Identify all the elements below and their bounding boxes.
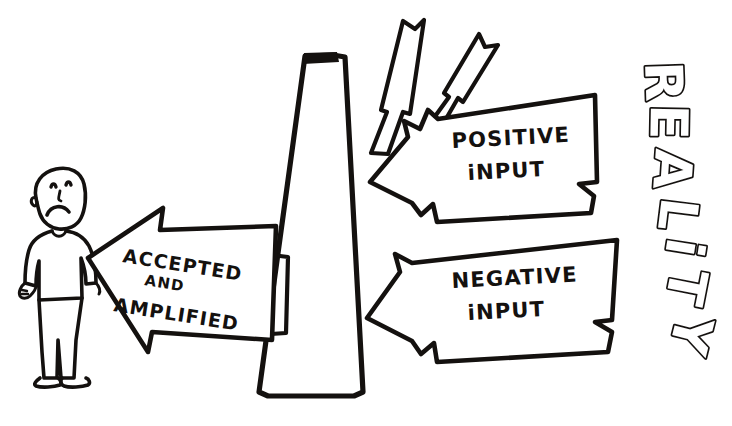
nose <box>59 191 61 201</box>
left-eye <box>51 184 56 187</box>
reality-letter-6: Y <box>657 308 725 361</box>
ear <box>31 198 37 206</box>
reality-letter-0: R <box>633 60 694 102</box>
sketch-canvas: POSITIVE iNPUT NEGATIVE iNPUT ACCEPTED A… <box>0 0 732 426</box>
frowning-mouth <box>47 207 69 215</box>
reality-letter-3: L <box>646 195 710 235</box>
reality-letter-4: i <box>653 234 715 261</box>
reality-wordmark: R E A L i T Y <box>633 60 725 361</box>
right-hand <box>96 283 100 294</box>
worried-person-figure <box>19 168 99 387</box>
reality-letter-5: T <box>653 264 719 311</box>
collar <box>52 231 66 236</box>
trousers <box>39 298 82 378</box>
left-hand-fingers <box>22 290 28 294</box>
reality-letter-1: E <box>638 104 699 141</box>
negative-input-line2: iNPUT <box>467 297 546 325</box>
negative-input-arrow: NEGATIVE iNPUT <box>367 240 617 362</box>
reality-letter-2: A <box>641 147 704 191</box>
positive-input-line2: iNPUT <box>467 157 546 185</box>
accepted-and-amplified-arrow: ACCEPTED AND AMPLIFIED <box>88 208 276 352</box>
head-outline <box>35 168 85 229</box>
filter-cone-apex <box>303 52 339 64</box>
right-eye <box>66 182 71 185</box>
hand-drawn-diagram: POSITIVE iNPUT NEGATIVE iNPUT ACCEPTED A… <box>0 0 732 426</box>
